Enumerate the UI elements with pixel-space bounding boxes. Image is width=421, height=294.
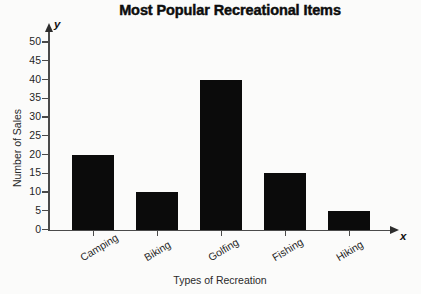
- y-tick-label: 40: [1, 73, 41, 85]
- x-category-label: Hiking: [334, 237, 365, 262]
- y-axis-arrow-icon: [45, 23, 53, 32]
- x-axis-label: Types of Recreation: [60, 274, 380, 286]
- y-tick-label: 30: [1, 110, 41, 122]
- y-tick-label: 45: [1, 54, 41, 66]
- x-axis-letter: x: [400, 230, 406, 242]
- x-tick: [349, 231, 350, 236]
- bar: [200, 80, 242, 230]
- y-axis-line: [48, 32, 50, 231]
- y-tick-label: 10: [1, 185, 41, 197]
- plot-area: y x 05101520253035404550: [48, 22, 398, 231]
- x-tick: [285, 231, 286, 236]
- x-tick: [221, 231, 222, 236]
- y-tick: [42, 173, 49, 174]
- x-axis-arrow-icon: [390, 226, 399, 234]
- y-axis-letter: y: [54, 18, 60, 30]
- y-tick-label: 50: [1, 35, 41, 47]
- y-tick-label: 0: [1, 223, 41, 235]
- chart-title: Most Popular Recreational Items: [60, 2, 400, 18]
- x-category-label: Camping: [78, 231, 120, 263]
- y-tick-label: 5: [1, 204, 41, 216]
- bar: [328, 211, 370, 230]
- bar: [264, 173, 306, 229]
- x-category-label: Golfing: [206, 235, 241, 262]
- x-category-label: Fishing: [270, 235, 305, 263]
- x-axis-line: [48, 230, 392, 232]
- y-tick: [42, 98, 49, 99]
- y-tick-label: 35: [1, 91, 41, 103]
- y-tick: [42, 210, 49, 211]
- y-tick: [42, 229, 49, 230]
- y-tick: [42, 191, 49, 192]
- y-tick: [42, 154, 49, 155]
- y-tick: [42, 79, 49, 80]
- y-tick: [42, 116, 49, 117]
- x-category-label: Biking: [142, 238, 173, 263]
- x-tick: [157, 231, 158, 236]
- y-tick: [42, 135, 49, 136]
- y-tick-label: 20: [1, 148, 41, 160]
- y-tick: [42, 60, 49, 61]
- y-tick-label: 25: [1, 129, 41, 141]
- y-tick-label: 15: [1, 166, 41, 178]
- y-tick: [42, 41, 49, 42]
- chart-figure: Most Popular Recreational Items Number o…: [0, 0, 421, 294]
- bar: [72, 155, 114, 230]
- bar: [136, 192, 178, 230]
- x-tick: [93, 231, 94, 236]
